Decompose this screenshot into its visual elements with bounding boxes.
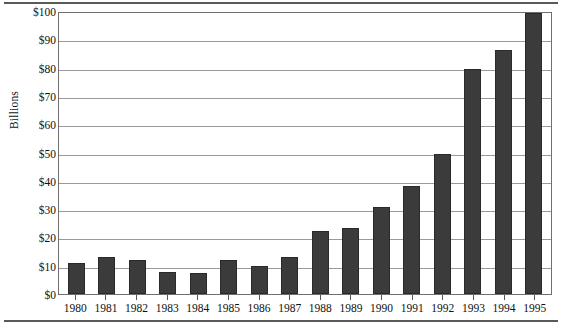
x-axis-tick-label: 1991 — [397, 302, 428, 320]
bar-1993[interactable] — [464, 69, 481, 294]
bar-slot — [366, 13, 397, 294]
x-axis-tick-label: 1995 — [519, 302, 550, 320]
bar-1986[interactable] — [251, 266, 268, 294]
y-axis-tick-label: $60 — [18, 119, 56, 131]
x-axis-tick-label: 1984 — [183, 302, 214, 320]
bar-1980[interactable] — [68, 263, 85, 294]
x-axis-tick-label: 1994 — [489, 302, 520, 320]
x-axis-tick-label: 1989 — [336, 302, 367, 320]
x-axis-tick-label: 1981 — [91, 302, 122, 320]
bar-slot — [92, 13, 123, 294]
x-axis-tick-mark-slot — [183, 295, 214, 301]
bar-1990[interactable] — [373, 207, 390, 294]
x-axis-tick-mark — [534, 295, 535, 300]
bar-slot — [458, 13, 489, 294]
x-axis-tick-mark — [504, 295, 505, 300]
bottom-horizontal-rule — [4, 320, 558, 322]
bar-1984[interactable] — [190, 273, 207, 294]
bar-slot — [183, 13, 214, 294]
x-axis-tick-mark-slot — [213, 295, 244, 301]
x-axis-tick-mark — [412, 295, 413, 300]
y-axis-tick-label: $30 — [18, 204, 56, 216]
x-axis-tick-mark — [105, 295, 106, 300]
x-axis-tick-mark — [289, 295, 290, 300]
x-axis-tick-mark-slot — [244, 295, 275, 301]
bar-slot — [397, 13, 428, 294]
y-axis-tick-label: $20 — [18, 232, 56, 244]
y-axis-tick-label: $50 — [18, 148, 56, 160]
bar-1992[interactable] — [434, 154, 451, 295]
x-axis-tick-mark-slot — [428, 295, 459, 301]
y-axis-tick-label: $80 — [18, 63, 56, 75]
x-axis-tick-label: 1986 — [244, 302, 275, 320]
bar-1995[interactable] — [525, 13, 542, 294]
top-horizontal-rule — [4, 2, 558, 4]
y-axis-tick-label: $0 — [18, 289, 56, 301]
bar-chart-figure: Billions $0$10$20$30$40$50$60$70$80$90$1… — [0, 0, 562, 329]
bar-slot — [519, 13, 550, 294]
x-axis-tick-mark — [259, 295, 260, 300]
x-axis-tick-mark-slot — [152, 295, 183, 301]
bar-1985[interactable] — [220, 260, 237, 294]
bar-slot — [275, 13, 306, 294]
x-axis-tick-mark-slot — [91, 295, 122, 301]
bar-1982[interactable] — [129, 260, 146, 294]
x-axis-tick-mark — [75, 295, 76, 300]
x-axis-tick-mark-slot — [397, 295, 428, 301]
bar-slot — [61, 13, 92, 294]
bar-slot — [427, 13, 458, 294]
y-axis-tick-label: $90 — [18, 34, 56, 46]
x-axis-tick-mark-slot — [60, 295, 91, 301]
bar-slot — [488, 13, 519, 294]
x-axis-tick-label: 1988 — [305, 302, 336, 320]
x-axis-tick-mark-slot — [305, 295, 336, 301]
x-axis-tick-mark — [381, 295, 382, 300]
bar-1991[interactable] — [403, 186, 420, 294]
y-axis-tick-label: $70 — [18, 91, 56, 103]
x-axis-tick-marks — [58, 295, 552, 301]
x-axis-tick-mark — [228, 295, 229, 300]
bar-1988[interactable] — [312, 231, 329, 294]
x-axis-tick-mark-slot — [366, 295, 397, 301]
bar-slot — [305, 13, 336, 294]
x-axis-tick-mark-slot — [489, 295, 520, 301]
x-axis-tick-mark — [320, 295, 321, 300]
x-axis-tick-label: 1983 — [152, 302, 183, 320]
x-axis-tick-mark — [136, 295, 137, 300]
x-axis-tick-label: 1985 — [213, 302, 244, 320]
bar-slot — [336, 13, 367, 294]
bar-slot — [122, 13, 153, 294]
bar-1987[interactable] — [281, 257, 298, 294]
y-axis-tick-label: $40 — [18, 176, 56, 188]
bar-1989[interactable] — [342, 228, 359, 294]
x-axis-tick-mark-slot — [336, 295, 367, 301]
bar-slot — [214, 13, 245, 294]
bar-1994[interactable] — [495, 50, 512, 294]
bar-slot — [244, 13, 275, 294]
x-axis-tick-label: 1993 — [458, 302, 489, 320]
x-axis-tick-labels: 1980198119821983198419851986198719881989… — [58, 302, 552, 320]
y-axis-tick-label: $100 — [18, 6, 56, 18]
x-axis-tick-mark-slot — [458, 295, 489, 301]
x-axis-tick-label: 1987 — [274, 302, 305, 320]
x-axis-tick-mark-slot — [274, 295, 305, 301]
x-axis-tick-mark-slot — [121, 295, 152, 301]
x-axis-tick-mark-slot — [519, 295, 550, 301]
x-axis-tick-label: 1990 — [366, 302, 397, 320]
y-axis-tick-labels: $0$10$20$30$40$50$60$70$80$90$100 — [18, 12, 56, 295]
x-axis-tick-mark — [167, 295, 168, 300]
x-axis-tick-mark — [473, 295, 474, 300]
x-axis-tick-label: 1992 — [428, 302, 459, 320]
y-axis-tick-label: $10 — [18, 261, 56, 273]
bar-1983[interactable] — [159, 272, 176, 294]
bar-series — [59, 13, 551, 294]
plot-area — [58, 12, 552, 295]
bar-slot — [153, 13, 184, 294]
x-axis-tick-label: 1982 — [121, 302, 152, 320]
x-axis-tick-label: 1980 — [60, 302, 91, 320]
x-axis-tick-mark — [197, 295, 198, 300]
x-axis-tick-mark — [442, 295, 443, 300]
x-axis-tick-mark — [350, 295, 351, 300]
bar-1981[interactable] — [98, 257, 115, 294]
